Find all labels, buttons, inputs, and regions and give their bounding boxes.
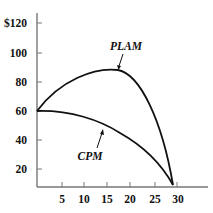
y-ticks: [37, 23, 42, 169]
x-tick-labels: 5 10 15 20 25 30: [59, 193, 184, 205]
x-tick-label: 15: [101, 193, 113, 205]
cpm-arrow: [97, 133, 102, 148]
plam-label: PLAM: [110, 40, 143, 52]
chart: $120 100 80 60 40 20 5 10 15 20 25 30 PL…: [0, 0, 213, 213]
cpm-label: CPM: [78, 150, 104, 162]
plam-curve: [37, 70, 173, 185]
x-ticks: [62, 182, 177, 187]
cpm-curve: [37, 111, 173, 185]
y-tick-label: 20: [16, 163, 28, 175]
x-tick-label: 5: [59, 193, 65, 205]
y-tick-labels: $120 100 80 60 40 20: [4, 17, 27, 175]
x-tick-label: 20: [124, 193, 136, 205]
y-tick-label: 100: [10, 47, 28, 59]
y-tick-label: 60: [16, 105, 28, 117]
cpm-arrowhead: [100, 129, 104, 135]
x-tick-label: 10: [78, 193, 90, 205]
plam-arrow: [119, 54, 123, 66]
y-tick-label: 40: [16, 134, 28, 146]
x-tick-label: 30: [172, 193, 184, 205]
y-tick-label: 80: [16, 76, 28, 88]
x-tick-label: 25: [149, 193, 161, 205]
y-tick-label: $120: [4, 17, 27, 29]
